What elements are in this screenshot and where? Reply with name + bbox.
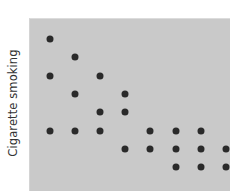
data-point [197, 145, 204, 152]
data-point [147, 145, 154, 152]
data-point [72, 90, 79, 97]
data-point [122, 90, 129, 97]
data-point [222, 164, 229, 171]
data-point [122, 109, 129, 116]
data-point [172, 164, 179, 171]
data-point [147, 127, 154, 134]
data-point [47, 72, 54, 79]
data-point [197, 164, 204, 171]
data-point [122, 145, 129, 152]
data-point [97, 127, 104, 134]
data-point [197, 127, 204, 134]
data-point [47, 36, 54, 43]
plot-area [29, 18, 230, 191]
data-point [97, 109, 104, 116]
data-point [222, 145, 229, 152]
data-point [72, 54, 79, 61]
data-point [72, 127, 79, 134]
data-point [47, 127, 54, 134]
data-point [97, 72, 104, 79]
y-axis-label: Cigarette smoking [6, 49, 20, 156]
data-point [172, 145, 179, 152]
data-point [172, 127, 179, 134]
